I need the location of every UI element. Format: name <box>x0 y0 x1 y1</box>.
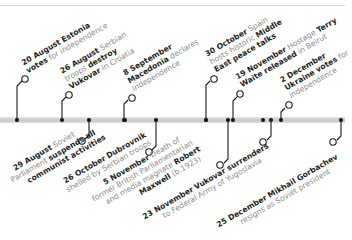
marker-8-september <box>123 95 136 122</box>
marker-19-november <box>232 91 244 122</box>
marker-5-november <box>217 119 230 169</box>
marker-20-august <box>16 76 29 122</box>
marker-26-october-upper <box>124 119 127 122</box>
marker-25-december <box>330 119 343 146</box>
marker-30-october <box>205 76 218 122</box>
marker-19-november-below <box>205 119 208 122</box>
marker-26-august <box>61 92 73 122</box>
marker-28-november-below <box>262 119 265 122</box>
marker-2-december <box>280 102 293 122</box>
